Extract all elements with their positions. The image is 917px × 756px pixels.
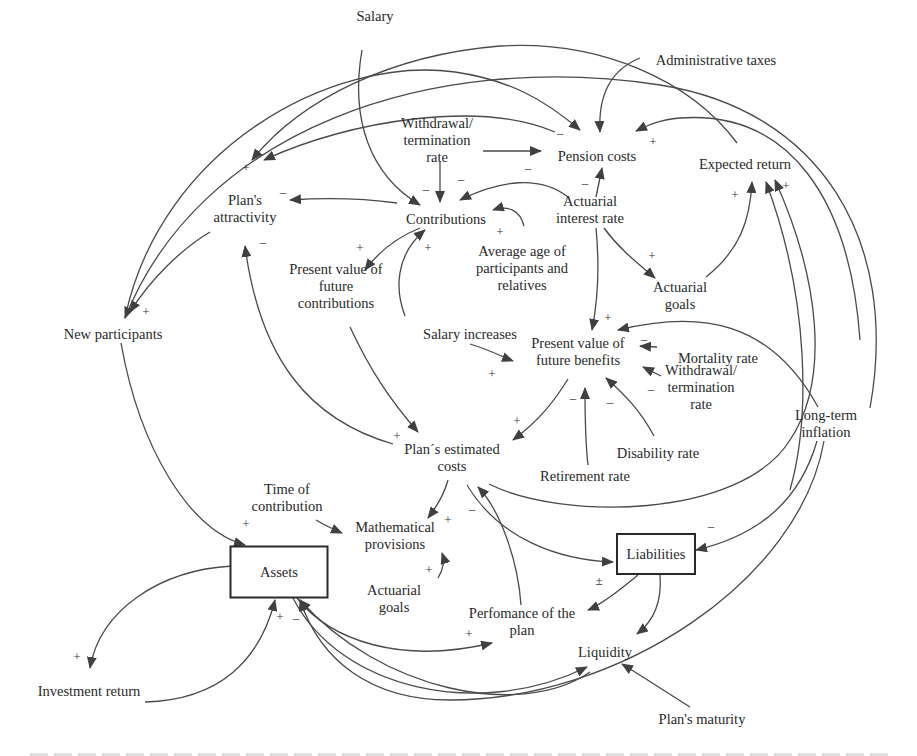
polarity-sign: –	[581, 175, 589, 190]
node-label: attractivity	[214, 209, 278, 225]
causal-link-actuarial_interest-to-pv_future_benefits	[592, 228, 598, 330]
node-label: Expected return	[699, 156, 792, 172]
causal-link-performance_plan-to-plans_estimated_costs	[478, 487, 521, 605]
polarity-sign: –	[556, 125, 564, 140]
causal-link-plans_attractivity-to-new_participants	[130, 232, 210, 312]
node-label: rate	[690, 396, 712, 412]
polarity-sign: –	[524, 160, 532, 175]
polarity-sign: –	[647, 381, 655, 396]
node-label: interest rate	[556, 210, 624, 226]
node-label: Plan's maturity	[659, 711, 747, 727]
node-pv-future-benefits: Present value offuture benefits	[531, 335, 625, 368]
node-label: Administrative taxes	[656, 52, 777, 68]
node-label: Investment return	[38, 683, 141, 699]
causal-link-pv_future_contrib-to-plans_estimated_costs	[350, 327, 418, 432]
causal-link-actuarial_goals_bottom-to-math_provisions	[438, 553, 443, 578]
node-salary-increases: Salary increases	[423, 326, 517, 342]
node-actuarial-goals-top: Actuarialgoals	[653, 279, 707, 312]
node-retirement-rate: Retirement rate	[540, 468, 630, 484]
polarity-sign: +	[649, 134, 656, 149]
polarity-sign: +	[276, 609, 283, 624]
causal-link-contributions-to-plans_attractivity	[290, 199, 397, 203]
node-label: Disability rate	[617, 445, 700, 461]
polarity-sign: +	[73, 649, 80, 664]
polarity-sign: +	[782, 178, 789, 193]
node-label: Liquidity	[578, 644, 633, 660]
polarity-sign: +	[242, 160, 249, 175]
polarity-sign: –	[259, 234, 267, 249]
node-label: Perfomance of the	[469, 605, 575, 621]
nodes-layer: SalaryAdministrative taxesWithdrawal/ter…	[38, 8, 858, 727]
node-label: contributions	[298, 295, 375, 311]
node-label: Actuarial	[653, 279, 707, 295]
node-avg-age: Average age ofparticipants andrelatives	[476, 243, 569, 293]
node-label: Mathematical	[355, 519, 435, 535]
polarity-sign: ±	[595, 573, 602, 588]
polarity-sign: –	[292, 610, 300, 625]
node-math-provisions: Mathematicalprovisions	[355, 519, 435, 552]
node-pv-future-contrib: Present value offuturecontributions	[289, 261, 383, 311]
node-liabilities: Liabilities	[617, 534, 695, 574]
node-label: Salary	[356, 8, 394, 24]
polarity-sign: +	[356, 240, 363, 255]
node-label: costs	[438, 458, 467, 474]
node-plans-maturity: Plan's maturity	[659, 711, 747, 727]
node-liquidity: Liquidity	[578, 644, 633, 660]
polarity-sign: –	[569, 390, 577, 405]
polarity-sign: –	[640, 331, 648, 346]
node-withdrawal-right: Withdrawal/terminationrate	[665, 362, 738, 412]
polarity-sign: +	[393, 428, 400, 443]
node-label: provisions	[365, 536, 426, 552]
node-long-term-inflation: Long-terminflation	[795, 407, 858, 440]
node-label: Salary increases	[423, 326, 517, 342]
node-label: Contributions	[406, 211, 486, 227]
node-label: Actuarial	[367, 582, 421, 598]
node-label: future	[319, 278, 354, 294]
node-label: Retirement rate	[540, 468, 630, 484]
node-label: Present value of	[531, 335, 625, 351]
polarity-sign: +	[465, 626, 472, 641]
node-actuarial-goals-bottom: Actuarialgoals	[367, 582, 421, 615]
node-contributions: Contributions	[406, 211, 486, 227]
polarity-sign: +	[604, 310, 611, 325]
polarity-sign: –	[422, 181, 430, 196]
causal-link-retirement_rate-to-pv_future_benefits	[585, 388, 588, 465]
node-label: Pension costs	[558, 148, 637, 164]
causal-link-plans_maturity-to-liquidity	[622, 664, 690, 707]
causal-link-long_term_inflation-to-liabilities	[696, 441, 817, 550]
polarity-sign: –	[279, 184, 287, 199]
node-label: rate	[426, 149, 448, 165]
node-label: relatives	[497, 277, 546, 293]
causal-link-long_term_inflation-to-expected_return	[766, 182, 803, 490]
node-plans-estimated-costs: Plan´s estimatedcosts	[404, 441, 500, 474]
polarity-sign: +	[488, 366, 495, 381]
node-admin-taxes: Administrative taxes	[656, 52, 777, 68]
node-assets: Assets	[231, 547, 328, 598]
polarity-sign: +	[648, 248, 655, 263]
node-withdrawal-top: Withdrawal/terminationrate	[401, 115, 474, 165]
causal-link-mortality_rate-to-pv_future_benefits	[640, 346, 657, 347]
polarity-sign: –	[457, 171, 465, 186]
node-label: New participants	[64, 326, 163, 342]
node-label: Liabilities	[627, 546, 686, 562]
causal-link-admin_taxes-to-pension_costs	[600, 58, 640, 132]
node-label: contribution	[252, 498, 324, 514]
node-time-of-contribution: Time ofcontribution	[252, 481, 324, 514]
node-label: Present value of	[289, 261, 383, 277]
node-label: Assets	[260, 564, 298, 580]
node-disability-rate: Disability rate	[617, 445, 700, 461]
causal-link-actuarial_interest-to-contributions	[460, 183, 568, 200]
node-label: future benefits	[536, 352, 621, 368]
node-label: goals	[379, 599, 410, 615]
polarity-sign: +	[513, 413, 520, 428]
figure-caption-cropped	[30, 748, 890, 756]
node-label: Withdrawal/	[401, 115, 474, 131]
node-label: Time of	[264, 481, 310, 497]
causal-link-new_participants-to-assets	[121, 343, 245, 545]
node-performance-plan: Perfomance of theplan	[469, 605, 575, 638]
node-pension-costs: Pension costs	[558, 148, 637, 164]
causal-link-salary_increases-to-pv_future_benefits	[470, 344, 513, 361]
polarity-sign: +	[496, 224, 503, 239]
causal-link-investment_return-to-assets	[145, 600, 275, 702]
causal-link-pv_future_benefits-to-plans_estimated_costs	[513, 379, 568, 440]
